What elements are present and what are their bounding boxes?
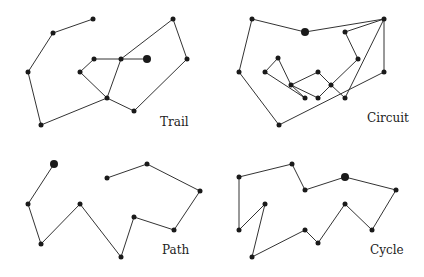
edge bbox=[252, 230, 305, 257]
vertex bbox=[303, 228, 308, 233]
vertex bbox=[51, 31, 56, 36]
vertex bbox=[105, 96, 110, 101]
vertex bbox=[343, 96, 348, 101]
vertex bbox=[26, 70, 31, 75]
edge bbox=[291, 85, 305, 98]
vertex bbox=[132, 109, 137, 114]
vertex bbox=[263, 70, 268, 75]
vertex bbox=[171, 17, 176, 22]
vertex bbox=[263, 202, 268, 207]
vertex bbox=[316, 96, 321, 101]
edge bbox=[147, 164, 200, 191]
edge bbox=[107, 59, 121, 98]
edge bbox=[80, 59, 94, 72]
edge bbox=[265, 72, 305, 98]
vertex bbox=[303, 188, 308, 193]
edge bbox=[173, 19, 187, 59]
edge bbox=[239, 19, 252, 72]
vertex bbox=[26, 202, 31, 207]
vertex bbox=[78, 70, 83, 75]
edge bbox=[345, 204, 372, 230]
edge bbox=[53, 19, 93, 33]
start-vertex bbox=[341, 173, 349, 181]
circuit-graph bbox=[237, 17, 387, 128]
vertex bbox=[250, 17, 255, 22]
edge bbox=[345, 177, 396, 190]
edge bbox=[134, 59, 187, 111]
start-vertex bbox=[301, 28, 309, 36]
circuit-label: Circuit bbox=[367, 111, 409, 125]
edge bbox=[345, 32, 358, 59]
cycle-label: Cycle bbox=[370, 243, 404, 257]
edge bbox=[265, 58, 278, 72]
edge bbox=[252, 204, 265, 257]
vertex bbox=[198, 189, 203, 194]
vertex bbox=[329, 83, 334, 88]
vertex bbox=[237, 228, 242, 233]
vertex bbox=[237, 175, 242, 180]
path-label: Path bbox=[162, 243, 190, 257]
vertex bbox=[145, 162, 150, 167]
edge bbox=[318, 204, 345, 243]
vertex bbox=[39, 242, 44, 247]
vertex bbox=[316, 241, 321, 246]
vertex bbox=[394, 188, 399, 193]
vertex bbox=[172, 228, 177, 233]
edge bbox=[28, 164, 54, 204]
trail-graph bbox=[26, 17, 190, 128]
vertex bbox=[343, 202, 348, 207]
vertex bbox=[39, 123, 44, 128]
vertex bbox=[289, 83, 294, 88]
vertex bbox=[343, 30, 348, 35]
vertex bbox=[185, 57, 190, 62]
vertex bbox=[370, 228, 375, 233]
vertex bbox=[119, 57, 124, 62]
vertex bbox=[277, 123, 282, 128]
edge bbox=[28, 72, 41, 125]
edge bbox=[292, 164, 305, 190]
vertex bbox=[356, 57, 361, 62]
edge bbox=[239, 164, 292, 177]
edge bbox=[80, 72, 107, 98]
edge bbox=[278, 58, 291, 85]
start-vertex bbox=[50, 160, 58, 168]
vertex bbox=[78, 202, 83, 207]
vertex bbox=[382, 70, 387, 75]
edge bbox=[107, 164, 147, 178]
edge bbox=[252, 19, 305, 32]
vertex bbox=[316, 70, 321, 75]
vertex bbox=[132, 215, 137, 220]
vertex bbox=[92, 57, 97, 62]
vertex bbox=[119, 255, 124, 260]
vertex bbox=[276, 56, 281, 61]
vertex bbox=[105, 176, 110, 181]
edge bbox=[239, 204, 265, 230]
edge bbox=[305, 230, 318, 243]
edge bbox=[134, 217, 174, 230]
edge bbox=[174, 191, 200, 230]
edge bbox=[318, 72, 331, 85]
edge bbox=[121, 217, 134, 257]
edge bbox=[345, 19, 384, 98]
graph-diagrams: Trail Circuit Path Cycle bbox=[0, 0, 424, 277]
edge bbox=[239, 72, 279, 125]
start-vertex bbox=[143, 55, 151, 63]
edge bbox=[331, 59, 358, 85]
trail-label: Trail bbox=[160, 115, 189, 129]
vertex bbox=[91, 17, 96, 22]
vertex bbox=[382, 17, 387, 22]
edge bbox=[121, 19, 173, 59]
edge bbox=[80, 204, 121, 257]
edge bbox=[331, 85, 345, 98]
edge bbox=[318, 85, 331, 98]
edge bbox=[107, 98, 134, 111]
vertex bbox=[237, 70, 242, 75]
vertex bbox=[303, 96, 308, 101]
edge bbox=[372, 190, 396, 230]
edge bbox=[28, 204, 41, 244]
edge bbox=[41, 98, 107, 125]
vertex bbox=[290, 162, 295, 167]
edge bbox=[291, 72, 318, 85]
edge bbox=[305, 177, 345, 190]
vertex bbox=[250, 255, 255, 260]
